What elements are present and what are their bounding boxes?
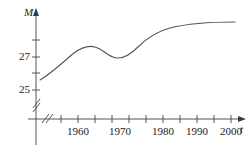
x-tick-label-2000: 2000 bbox=[209, 125, 250, 137]
y-axis-title: M bbox=[24, 6, 33, 18]
chart-figure: M t 27 25 1960 1970 1980 1990 2000 bbox=[0, 0, 250, 154]
x-axis-group bbox=[28, 114, 246, 123]
data-curve bbox=[40, 22, 235, 80]
y-axis-group bbox=[32, 8, 40, 145]
x-tick-label-1960: 1960 bbox=[56, 125, 100, 137]
x-tick-label-1970: 1970 bbox=[98, 125, 142, 137]
x-axis-arrow-icon bbox=[238, 116, 246, 122]
y-tick-label-25: 25 bbox=[14, 83, 30, 95]
y-tick-label-27: 27 bbox=[14, 50, 30, 62]
y-axis-arrow-icon bbox=[33, 8, 39, 16]
